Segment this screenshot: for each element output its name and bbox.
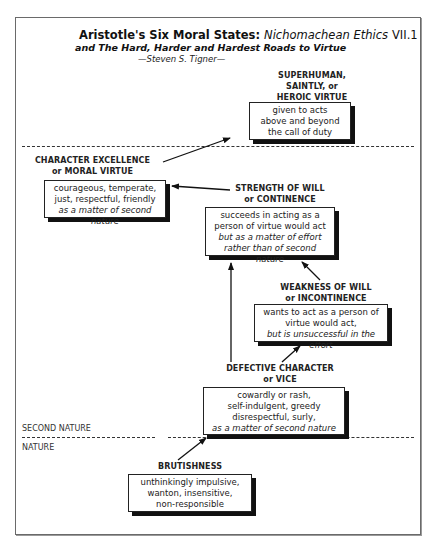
desc-line: succeeds in acting as a (209, 210, 331, 221)
title-main: Aristotle's Six Moral States: (79, 28, 260, 42)
diagram-author: —Steven S. Tigner— (138, 54, 225, 64)
desc-italic-line: but is unsuccessful in the effort (258, 329, 384, 351)
state-box-moral-virtue: courageous, temperate, just, respectful,… (44, 180, 166, 218)
state-label-superhuman: SUPERHUMAN, SAINTLY, or HEROIC VIRTUE (262, 70, 362, 103)
state-label-incontinence: WEAKNESS OF WILL or INCONTINENCE (276, 282, 376, 304)
state-label-continence: STRENGTH OF WILL or CONTINENCE (230, 183, 330, 205)
title-reference: VII.1 (392, 28, 418, 42)
label-line: SAINTLY, or (262, 81, 362, 92)
desc-line: unthinkingly impulsive, (132, 477, 248, 488)
nature-divider-right (168, 437, 414, 438)
desc-line: above and beyond (253, 116, 347, 127)
title-work: Nichomachean Ethics (264, 28, 388, 42)
diagram-subtitle: and The Hard, Harder and Hardest Roads t… (75, 42, 346, 53)
desc-line: person of virtue would act (209, 221, 331, 232)
zone-nature: NATURE (22, 443, 54, 452)
label-line: or INCONTINENCE (276, 293, 376, 304)
desc-line: non-responsible (132, 499, 248, 510)
desc-italic-line: but as a matter of effort (209, 232, 331, 243)
state-label-vice: DEFECTIVE CHARACTER or VICE (225, 363, 335, 385)
state-box-brutishness: unthinkingly impulsive, wanton, insensit… (128, 474, 252, 512)
label-line: DEFECTIVE CHARACTER (225, 363, 335, 374)
desc-line: self-indulgent, greedy (207, 401, 341, 412)
desc-line: courageous, temperate, (48, 183, 162, 194)
state-box-vice: cowardly or rash, self-indulgent, greedy… (203, 387, 345, 435)
desc-line: disrespectful, surly, (207, 412, 341, 423)
state-label-moral-virtue: CHARACTER EXCELLENCE or MORAL VIRTUE (30, 155, 155, 177)
desc-line: given to acts (253, 105, 347, 116)
desc-line: wanton, insensitive, (132, 488, 248, 499)
zone-second-nature: SECOND NATURE (22, 424, 91, 433)
label-line: WEAKNESS OF WILL (276, 282, 376, 293)
label-line: or CONTINENCE (230, 194, 330, 205)
desc-line: virtue would act, (258, 318, 384, 329)
label-line: CHARACTER EXCELLENCE (30, 155, 155, 166)
desc-line: wants to act as a person of (258, 307, 384, 318)
state-label-brutishness: BRUTISHNESS (150, 461, 230, 472)
label-line: SUPERHUMAN, (262, 70, 362, 81)
state-box-superhuman: given to acts above and beyond the call … (249, 102, 351, 140)
label-line: BRUTISHNESS (150, 461, 230, 472)
superhuman-divider (22, 146, 414, 147)
desc-italic-line: rather than of second nature (209, 243, 331, 265)
state-box-incontinence: wants to act as a person of virtue would… (254, 304, 388, 342)
nature-divider-left (22, 437, 155, 438)
desc-line: cowardly or rash, (207, 390, 341, 401)
desc-line: just, respectful, friendly (48, 194, 162, 205)
desc-italic-line: as a matter of second nature (48, 205, 162, 227)
diagram-title: Aristotle's Six Moral States: Nichomache… (79, 28, 418, 42)
label-line: or VICE (225, 374, 335, 385)
desc-line: the call of duty (253, 127, 347, 138)
label-line: or MORAL VIRTUE (30, 166, 155, 177)
label-line: STRENGTH OF WILL (230, 183, 330, 194)
desc-italic-line: as a matter of second nature (207, 423, 341, 434)
state-box-continence: succeeds in acting as a person of virtue… (205, 207, 335, 256)
